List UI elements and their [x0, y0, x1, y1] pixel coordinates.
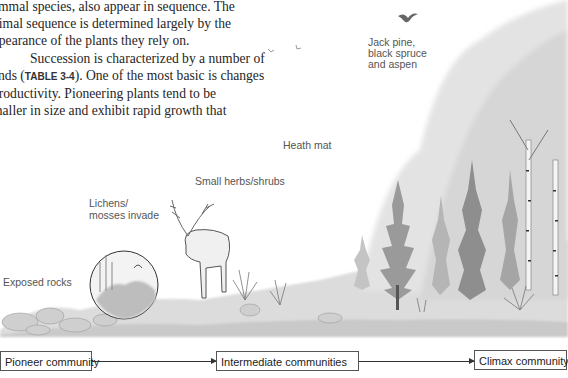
lichen-magnifier	[90, 251, 158, 319]
stage-climax-community: Climax community	[474, 350, 567, 370]
label-lichens-line1: Lichens/	[89, 197, 128, 209]
arrow-right-icon	[359, 361, 474, 362]
small-bird-icon	[296, 45, 301, 49]
label-small-herbs: Small herbs/shrubs	[195, 175, 285, 187]
label-trees-line3: and aspen	[368, 58, 417, 70]
caribou	[170, 200, 230, 298]
stage-intermediate-communities: Intermediate communities	[216, 351, 359, 371]
stage-pioneer-community: Pioneer community	[0, 351, 92, 371]
arrow-right-icon	[92, 361, 216, 362]
succession-illustration	[0, 0, 568, 378]
label-lichens-line2: mosses invade	[89, 209, 159, 221]
label-heath-mat: Heath mat	[283, 139, 331, 151]
label-exposed-rocks: Exposed rocks	[3, 276, 72, 288]
bird-icon	[398, 14, 418, 23]
small-bird-icon	[268, 49, 274, 52]
